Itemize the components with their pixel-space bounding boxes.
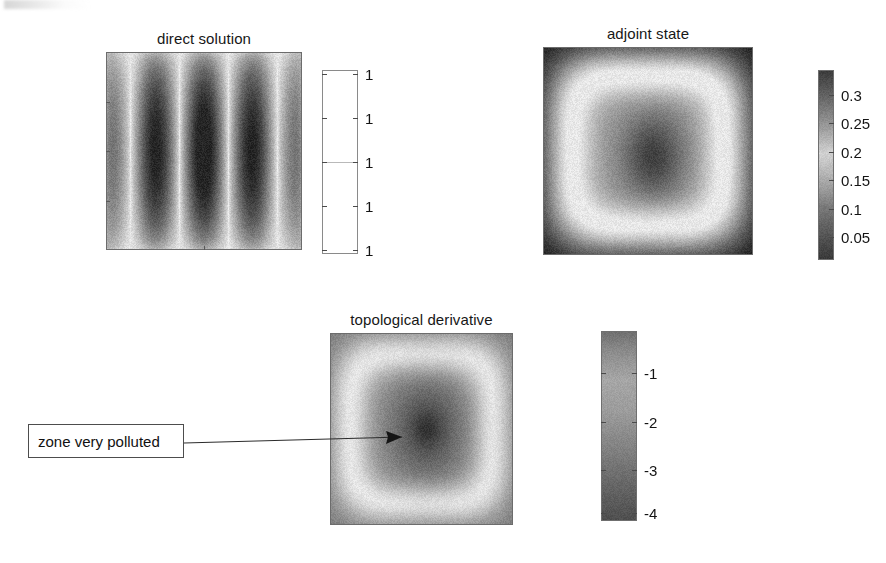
scan-artifact-smudge <box>4 0 90 9</box>
colorbar-topo-tickmark-0 <box>632 373 637 374</box>
panel-title-direct-solution: direct solution <box>106 30 302 47</box>
colorbar-topo-tickmark-1 <box>632 422 637 423</box>
colorbar-adjoint-label-2: 0.2 <box>841 143 862 160</box>
colorbar-adjoint-label-3: 0.15 <box>841 172 870 189</box>
colorbar-topo-tickmark-2 <box>632 470 637 471</box>
colorbar-topological-derivative[interactable]: -1 -2 -3 -4 <box>601 331 637 521</box>
colorbar-direct-label-1: 1 <box>365 109 373 126</box>
plot-area-adjoint-state[interactable]: 1 0.5 0 -0.5 -1 -1 0 1 <box>543 47 753 255</box>
panel-adjoint-state: adjoint state 1 0.5 0 -0.5 -1 -1 0 1 <box>543 25 753 275</box>
figure-root: direct solution 1 0.5 0 -0.5 -1 -1 0 1 <box>0 0 886 563</box>
colorbar-topo-label-2: -3 <box>644 461 657 478</box>
colorbar-direct-tickmark-0 <box>353 74 358 75</box>
colorbar-adjoint-tickmark-3 <box>829 180 834 181</box>
colorbar-topo-label-3: -4 <box>644 505 657 522</box>
colorbar-direct-label-2: 1 <box>365 154 373 171</box>
panel-topological-derivative: topological derivative 1 0.5 0 -0.5 -1 -… <box>330 311 513 551</box>
colorbar-topo-label-1: -2 <box>644 414 657 431</box>
colorbar-topo-tickmark-3 <box>632 513 637 514</box>
annotation-box-zone-very-polluted[interactable]: zone very polluted <box>28 424 184 458</box>
colorbar-adjoint-tickmark-2 <box>829 152 834 153</box>
colorbar-direct-tickmark-left-1 <box>322 118 327 119</box>
colorbar-adjoint-tickmark-5 <box>829 237 834 238</box>
colorbar-adjoint-tickmark-4 <box>829 209 834 210</box>
colorbar-adjoint-tickmark-0 <box>829 95 834 96</box>
annotation-label: zone very polluted <box>38 434 160 449</box>
panel-direct-solution: direct solution 1 0.5 0 -0.5 -1 -1 0 1 <box>106 30 302 280</box>
tickmark-x-direct-0 <box>204 246 205 250</box>
colorbar-adjoint-state[interactable]: 0.3 0.25 0.2 0.15 0.1 0.05 <box>818 70 834 260</box>
tickmark-y-direct-0 <box>106 102 110 103</box>
colorbar-adjoint-label-1: 0.25 <box>841 115 870 132</box>
colorbar-direct-tickmark-left-0 <box>322 74 327 75</box>
heatmap-topological-derivative <box>330 333 513 525</box>
colorbar-direct-label-4: 1 <box>365 242 373 259</box>
colorbar-topo-tickmark-left-0 <box>601 373 606 374</box>
colorbar-adjoint-label-4: 0.1 <box>841 200 862 217</box>
colorbar-topo-tickmark-left-2 <box>601 470 606 471</box>
colorbar-direct-label-3: 1 <box>365 198 373 215</box>
colorbar-direct-tickmark-4 <box>353 250 358 251</box>
heatmap-adjoint-state <box>543 47 753 255</box>
tickmark-y-direct-2 <box>106 201 110 202</box>
colorbar-direct-tickmark-1 <box>353 118 358 119</box>
colorbar-direct-tickmark-left-3 <box>322 206 327 207</box>
colorbar-direct-label-0: 1 <box>365 65 373 82</box>
colorbar-topo-tickmark-left-1 <box>601 422 606 423</box>
colorbar-direct-solution[interactable]: 1 1 1 1 1 <box>322 70 358 254</box>
colorbar-adjoint-label-0: 0.3 <box>841 86 862 103</box>
colorbar-direct-divider <box>323 162 357 163</box>
plot-area-direct-solution[interactable]: 1 0.5 0 -0.5 -1 -1 0 1 <box>106 52 302 250</box>
colorbar-direct-tickmark-3 <box>353 206 358 207</box>
plot-area-topological-derivative[interactable]: 1 0.5 0 -0.5 -1 -1 0 1 <box>330 333 513 525</box>
colorbar-direct-tickmark-left-2 <box>322 162 327 163</box>
colorbar-adjoint-tickmark-1 <box>829 123 834 124</box>
colorbar-direct-tickmark-left-4 <box>322 250 327 251</box>
colorbar-topological-strip <box>601 331 637 521</box>
colorbar-adjoint-label-5: 0.05 <box>841 229 870 246</box>
colorbar-topo-label-0: -1 <box>644 364 657 381</box>
panel-title-topological-derivative: topological derivative <box>330 311 513 328</box>
colorbar-direct-tickmark-2 <box>353 162 358 163</box>
tickmark-y-direct-1 <box>106 151 110 152</box>
colorbar-topo-tickmark-left-3 <box>601 513 606 514</box>
heatmap-direct-solution <box>106 52 302 250</box>
panel-title-adjoint-state: adjoint state <box>543 25 753 42</box>
colorbar-adjoint-strip <box>818 70 834 260</box>
